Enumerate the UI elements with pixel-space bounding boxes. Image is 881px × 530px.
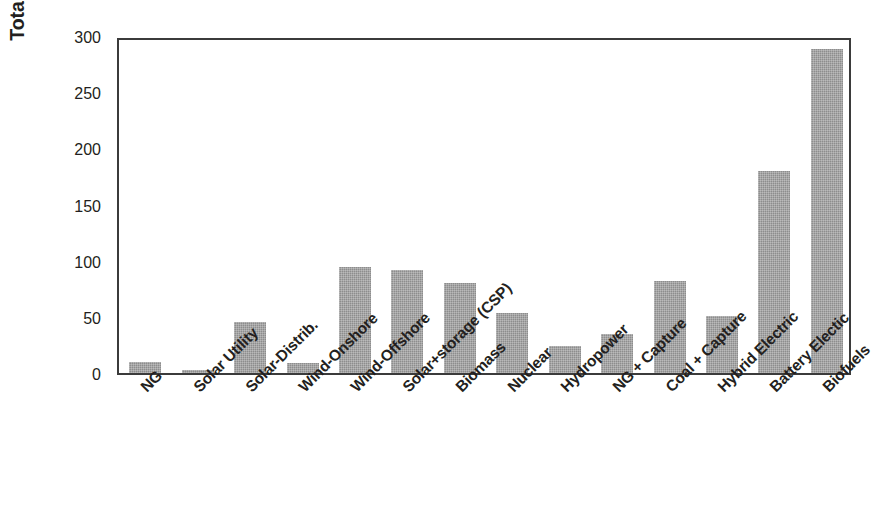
y-tick-label: 150 — [40, 199, 110, 215]
y-tick-label: 300 — [40, 30, 110, 46]
y-tick-label: 250 — [40, 86, 110, 102]
bar-chart-figure: Total cost ($/avoided CO2 ton) 050100150… — [0, 0, 881, 530]
y-tick-label: 100 — [40, 255, 110, 271]
y-tick-label: 50 — [40, 311, 110, 327]
x-axis-tick-labels: NGSolar UtilitySolar-Distrib.Wind-Onshor… — [117, 375, 851, 530]
y-axis-title: Total cost ($/avoided CO2 ton) — [0, 0, 34, 72]
y-tick-label: 200 — [40, 142, 110, 158]
y-tick-label: 0 — [40, 367, 110, 383]
y-axis-tick-labels: 050100150200250300 — [40, 0, 110, 530]
